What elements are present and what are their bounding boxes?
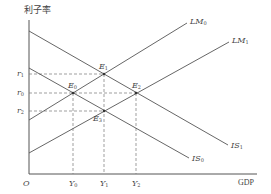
is-lm-diagram xyxy=(0,0,271,194)
y-axis-label: 利子率 xyxy=(24,6,51,15)
e1-point xyxy=(103,73,106,76)
y1-label: Y1 xyxy=(100,180,108,188)
is1-curve xyxy=(29,31,228,145)
e0-label: E0 xyxy=(68,82,77,90)
origin-label: O xyxy=(23,180,30,188)
lm1-label: LM1 xyxy=(232,37,249,45)
e2-point xyxy=(135,92,138,95)
x-axis-label: GDP xyxy=(238,179,254,187)
e3-point xyxy=(103,110,106,113)
e0-point xyxy=(72,92,75,95)
is0-curve xyxy=(29,68,189,158)
e2-label: E2 xyxy=(132,82,141,90)
e1-label: E1 xyxy=(99,63,108,71)
y0-label: Y0 xyxy=(69,180,77,188)
is1-label: IS1 xyxy=(231,142,243,150)
r2-label: r2 xyxy=(17,107,24,115)
y2-label: Y2 xyxy=(132,180,140,188)
r0-label: r0 xyxy=(17,89,24,97)
lm0-label: LM0 xyxy=(190,18,207,26)
is0-label: IS0 xyxy=(192,155,204,163)
r1-label: r1 xyxy=(17,70,24,78)
lm0-curve xyxy=(29,23,187,120)
e3-label: E3 xyxy=(93,115,102,123)
